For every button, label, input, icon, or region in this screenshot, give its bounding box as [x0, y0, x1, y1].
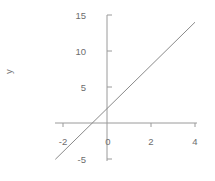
x-tick-label-0: 0	[96, 137, 120, 147]
y-tick-label-5: 5	[56, 83, 86, 93]
line-chart: y 15 10 5 -5 -2 0 2 4	[0, 0, 215, 181]
y-tick-label-10: 10	[56, 47, 86, 57]
x-tick-label-minus-2: -2	[51, 137, 75, 147]
y-axis-title: y	[4, 69, 14, 74]
y-tick-label-15: 15	[56, 11, 86, 21]
x-tick-label-2: 2	[139, 137, 163, 147]
plot-area	[0, 0, 215, 181]
x-tick-label-4: 4	[183, 137, 207, 147]
y-tick-label-minus-5: -5	[56, 155, 86, 165]
